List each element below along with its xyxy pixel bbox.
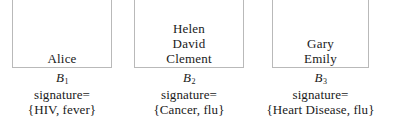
bucket-box-1: Alice — [12, 0, 112, 68]
bucket-member: Helen — [173, 21, 205, 36]
signature-label-3: signature= — [293, 87, 349, 102]
bucket-label-3: B3 — [315, 70, 327, 87]
bucket-label-subscript: 3 — [323, 77, 327, 86]
bucket-label-base: B — [315, 70, 323, 85]
bucket-member: Alice — [47, 51, 76, 66]
bucket-caption-3: B3 signature= {Heart Disease, flu} — [267, 70, 375, 117]
bucket-member: Clement — [166, 51, 211, 66]
bucket-caption-2: B2 signature= {Cancer, flu} — [153, 70, 224, 117]
bucket-box-3: Gary Emily — [272, 0, 369, 68]
bucket-block-1: Alice B1 signature= {HIV, fever} — [12, 0, 112, 117]
signature-label-1: signature= — [34, 87, 90, 102]
signature-value-3: {Heart Disease, flu} — [267, 102, 375, 117]
bucket-member: Emily — [304, 51, 337, 66]
signature-value-2: {Cancer, flu} — [153, 102, 224, 117]
bucket-label-base: B — [183, 70, 191, 85]
bucket-label-subscript: 1 — [64, 77, 68, 86]
bucket-member: Gary — [307, 36, 334, 51]
bucket-block-2: Helen David Clement B2 signature= {Cance… — [134, 0, 244, 117]
bucket-label-1: B1 — [56, 70, 68, 87]
bucket-label-base: B — [56, 70, 64, 85]
signature-value-1: {HIV, fever} — [28, 102, 96, 117]
bucket-label-subscript: 2 — [191, 77, 195, 86]
bucket-block-3: Gary Emily B3 signature= {Heart Disease,… — [272, 0, 369, 117]
bucket-member: David — [173, 36, 206, 51]
bucket-label-2: B2 — [183, 70, 195, 87]
bucket-signature-diagram: Alice B1 signature= {HIV, fever} Helen D… — [0, 0, 404, 131]
signature-label-2: signature= — [161, 87, 217, 102]
bucket-caption-1: B1 signature= {HIV, fever} — [28, 70, 96, 117]
bucket-box-2: Helen David Clement — [134, 0, 244, 68]
